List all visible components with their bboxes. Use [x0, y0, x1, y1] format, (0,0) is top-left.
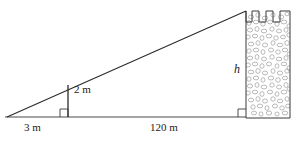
hypotenuse-sight-line: [7, 11, 246, 117]
right-angle-marker-stick: [60, 109, 68, 117]
geometry-figure: 2 m 3 m 120 m h: [0, 0, 297, 141]
castle-tower: [246, 11, 292, 118]
label-unknown-height: h: [234, 63, 240, 75]
label-long-base: 120 m: [150, 122, 178, 133]
diagram-canvas: [0, 0, 297, 141]
label-short-base: 3 m: [24, 122, 41, 133]
label-stick-height: 2 m: [74, 84, 91, 95]
